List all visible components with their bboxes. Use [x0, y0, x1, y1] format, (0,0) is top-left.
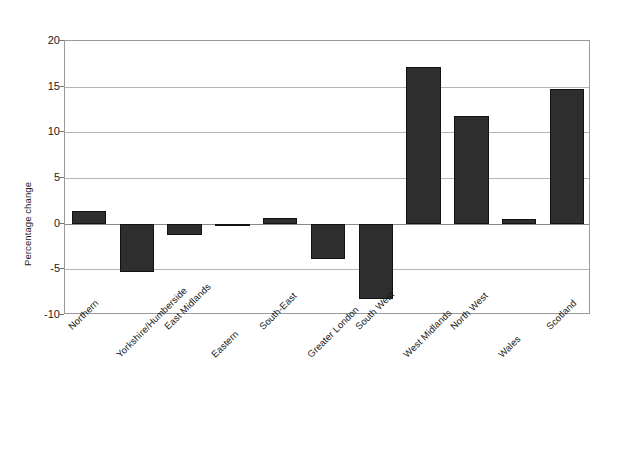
x-label-scotland: Scotland [544, 297, 578, 331]
x-label-west-midlands: West Midlands [401, 307, 454, 360]
x-label-northern: Northern [66, 297, 100, 331]
y-tick-mark-20 [58, 40, 64, 41]
y-tick-mark--5 [58, 268, 64, 269]
x-axis-category-labels: NorthernYorkshire/HumbersideEast Midland… [0, 0, 637, 451]
y-tick-mark-0 [58, 223, 64, 224]
y-tick-mark-10 [58, 131, 64, 132]
y-tick-mark-5 [58, 177, 64, 178]
x-label-north-west: North West [448, 290, 490, 332]
y-tick-mark-15 [58, 86, 64, 87]
x-label-greater-london: Greater London [305, 304, 361, 360]
x-label-south-east: South-East [257, 290, 299, 332]
x-label-eastern: Eastern [209, 328, 240, 359]
y-tick-mark--10 [58, 314, 64, 315]
x-label-wales: Wales [496, 333, 523, 360]
bar-chart: Percentage change 20151050-5-10 Northern… [0, 0, 637, 451]
